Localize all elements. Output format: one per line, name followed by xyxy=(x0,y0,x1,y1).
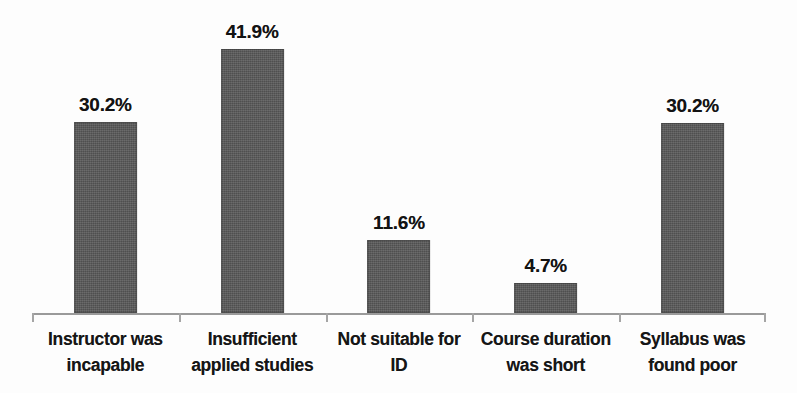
bar-slot: 11.6% xyxy=(326,8,473,313)
x-axis-category-labels: Instructor was incapable Insufficient ap… xyxy=(32,326,766,390)
bar-slot: 4.7% xyxy=(472,8,619,313)
x-axis-tick xyxy=(32,313,34,322)
category-label-line2: incapable xyxy=(32,352,179,378)
category-label-line2: was short xyxy=(472,352,619,378)
category-label-line2: found poor xyxy=(619,352,766,378)
bar-value-label: 30.2% xyxy=(666,95,719,117)
category-label-line1: Insufficient xyxy=(208,329,297,349)
bar-column: 4.7% xyxy=(472,8,619,313)
x-axis-tick xyxy=(619,313,621,322)
plot-area: 30.2% 41.9% 11.6% 4.7% 30.2% xyxy=(32,8,766,313)
category-label-line1: Syllabus was xyxy=(640,329,746,349)
category-label-line2: applied studies xyxy=(179,352,326,378)
category-label-line1: Course duration xyxy=(481,329,611,349)
bar-slot: 41.9% xyxy=(179,8,326,313)
bar-rect[interactable] xyxy=(74,122,137,313)
bar-value-label: 4.7% xyxy=(525,255,568,277)
bar-rect[interactable] xyxy=(514,283,577,313)
bar-slot: 30.2% xyxy=(619,8,766,313)
category-label: Instructor was incapable xyxy=(32,326,179,378)
x-axis-line xyxy=(32,313,766,315)
category-label-line1: Instructor was xyxy=(48,329,163,349)
bar-value-label: 30.2% xyxy=(79,94,132,116)
bar-chart: 30.2% 41.9% 11.6% 4.7% 30.2% xyxy=(0,0,797,393)
category-label-line1: Not suitable for xyxy=(338,329,461,349)
x-axis-tick xyxy=(326,313,328,322)
category-label-line2: ID xyxy=(326,352,473,378)
bar-column: 30.2% xyxy=(32,8,179,313)
bar-column: 11.6% xyxy=(326,8,473,313)
bar-slot: 30.2% xyxy=(32,8,179,313)
x-axis-tick xyxy=(472,313,474,322)
category-label: Not suitable for ID xyxy=(326,326,473,378)
bar-column: 30.2% xyxy=(619,8,766,313)
category-label: Course duration was short xyxy=(472,326,619,378)
bar-value-label: 41.9% xyxy=(226,21,279,43)
bar-rect[interactable] xyxy=(367,240,430,313)
bar-column: 41.9% xyxy=(179,8,326,313)
x-axis-tick xyxy=(764,313,766,322)
bar-rect[interactable] xyxy=(661,123,724,313)
category-label: Syllabus was found poor xyxy=(619,326,766,378)
category-label: Insufficient applied studies xyxy=(179,326,326,378)
bar-rect[interactable] xyxy=(221,49,284,313)
x-axis-tick xyxy=(179,313,181,322)
bar-value-label: 11.6% xyxy=(373,212,425,234)
